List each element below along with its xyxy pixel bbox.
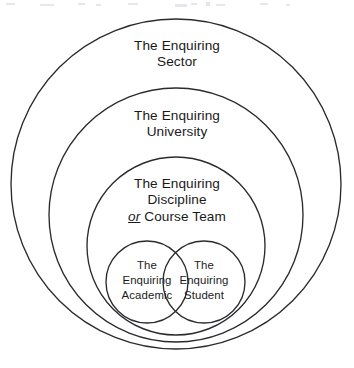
label-line: Sector (0, 54, 354, 70)
label-line-course-team: or Course Team (0, 209, 354, 225)
label-line: Discipline (0, 192, 354, 208)
label-enquiring-university: The Enquiring University (0, 108, 354, 140)
label-line: The Enquiring (0, 108, 354, 124)
label-course-team-text: Course Team (140, 209, 226, 224)
label-or-emphasis: or (128, 209, 140, 224)
label-line: The Enquiring (0, 176, 354, 192)
label-line: The Enquiring (0, 38, 354, 54)
label-line: University (0, 124, 354, 140)
label-enquiring-discipline: The Enquiring Discipline or Course Team (0, 176, 354, 225)
label-line: Student (163, 288, 245, 303)
label-enquiring-student: The Enquiring Student (163, 258, 245, 302)
label-enquiring-sector: The Enquiring Sector (0, 38, 354, 70)
label-line: The (163, 258, 245, 273)
diagram-canvas: The Enquiring Sector The Enquiring Unive… (0, 0, 354, 368)
label-line: Enquiring (163, 273, 245, 288)
